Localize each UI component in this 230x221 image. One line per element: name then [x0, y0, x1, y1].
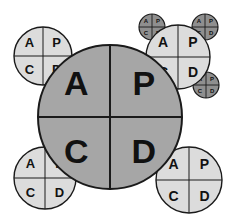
mini-top-left-label-top-right: P: [156, 18, 160, 24]
satellite-bottom-right-label-top-left: A: [168, 156, 178, 172]
mini-top-left-label-bottom-left: C: [144, 30, 149, 36]
mini-top-right-label-bottom-right: D: [209, 30, 214, 36]
core-circle-label-top-left: A: [64, 64, 89, 102]
satellite-top-left-label-bottom-left: C: [25, 62, 35, 77]
satellite-bottom-right-label-top-right: P: [200, 156, 209, 172]
mini-bottom-right-label-top-right: P: [210, 76, 214, 82]
core-circle[interactable]: APCD: [38, 45, 182, 189]
core-circle-label-bottom-right: D: [132, 132, 157, 170]
satellite-bottom-left-label-top-left: A: [26, 156, 36, 171]
mini-bottom-right-label-bottom-left: C: [198, 88, 203, 94]
apcd-fractal-diagram: APCDAPCDAPCDAPCDAPCDAPCDAPCDAPCDAPCD: [0, 0, 230, 221]
core-circle-label-bottom-left: C: [64, 132, 89, 170]
satellite-bottom-left-label-bottom-right: D: [55, 185, 64, 200]
mini-top-left-label-top-left: A: [144, 18, 149, 24]
satellite-bottom-right-label-bottom-left: C: [168, 188, 178, 204]
mini-bottom-right-label-bottom-right: D: [210, 88, 215, 94]
satellite-top-right-label-bottom-right: D: [188, 64, 198, 80]
satellite-bottom-left-label-bottom-left: C: [26, 185, 36, 200]
diagram-canvas: APCDAPCDAPCDAPCDAPCDAPCDAPCDAPCDAPCD: [0, 0, 230, 221]
core-circle-label-top-right: P: [132, 64, 155, 102]
satellite-top-right-label-top-left: A: [158, 34, 168, 50]
satellite-top-left-label-top-left: A: [25, 35, 35, 50]
mini-top-right-label-top-right: P: [209, 18, 213, 24]
satellite-bottom-right-label-bottom-right: D: [199, 188, 209, 204]
satellite-top-left-label-top-right: P: [52, 35, 61, 50]
mini-top-right-label-top-left: A: [197, 18, 202, 24]
satellite-top-right-label-top-right: P: [188, 34, 197, 50]
